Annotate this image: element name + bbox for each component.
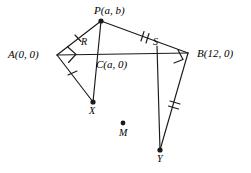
point-label-S: S xyxy=(153,37,158,47)
segment-AP xyxy=(57,21,101,55)
vertex-dot-X xyxy=(90,99,95,104)
segment-SY xyxy=(157,46,160,150)
point-label-B: B(12, 0) xyxy=(197,48,233,59)
segment-BY xyxy=(160,53,188,150)
point-label-M: M xyxy=(119,128,127,138)
tick-mark-BY-1 xyxy=(170,101,180,104)
vertex-dot-P xyxy=(98,18,103,23)
point-label-C: C(a, 0) xyxy=(96,59,127,70)
point-label-X: X xyxy=(89,106,95,116)
vertex-dot-Y xyxy=(157,147,162,152)
geometry-figure: P(a, b) A(0, 0) B(12, 0) C(a, 0) R S X Y… xyxy=(0,0,251,173)
vertex-dot-M xyxy=(121,121,126,126)
segment-PB xyxy=(101,21,188,53)
point-label-A: A(0, 0) xyxy=(8,49,39,60)
right-angle-at-B-icon xyxy=(174,50,183,63)
point-label-Y: Y xyxy=(157,154,163,164)
point-label-P: P(a, b) xyxy=(94,5,125,16)
segment-AB xyxy=(57,53,188,55)
segment-AX xyxy=(57,55,93,102)
tick-mark-BY-2 xyxy=(169,106,179,109)
figure-canvas xyxy=(0,0,251,173)
point-label-R: R xyxy=(81,37,87,47)
